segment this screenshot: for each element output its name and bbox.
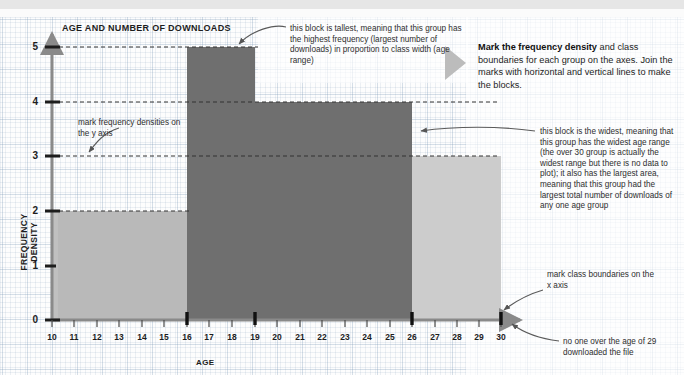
x-tick-label-20: 20 xyxy=(269,332,285,342)
arrow-no-one xyxy=(512,324,559,341)
instruction-callout: Mark the frequency density and class bou… xyxy=(478,41,676,91)
x-tick-label-30: 30 xyxy=(493,332,509,342)
x-tick-label-15: 15 xyxy=(156,332,172,342)
bar-26-30 xyxy=(412,156,501,320)
x-tick-label-25: 25 xyxy=(382,332,398,342)
annotation-mark-y-axis: mark frequency densities on the y axis xyxy=(78,118,190,139)
x-tick-label-27: 27 xyxy=(427,332,443,342)
x-tick-label-18: 18 xyxy=(224,332,240,342)
bars-group xyxy=(52,47,501,320)
x-tick-label-12: 12 xyxy=(89,332,105,342)
annotation-mark-x-axis: mark class boundaries on the x axis xyxy=(547,270,657,291)
y-tick-label-4: 4 xyxy=(24,96,38,107)
x-tick-label-29: 29 xyxy=(471,332,487,342)
x-tick-label-21: 21 xyxy=(292,332,308,342)
x-tick-label-23: 23 xyxy=(337,332,353,342)
x-tick-label-19: 19 xyxy=(247,332,263,342)
x-tick-label-17: 17 xyxy=(201,332,217,342)
instruction-bold-lead: Mark the frequency density xyxy=(478,42,597,52)
x-tick-label-10: 10 xyxy=(44,332,60,342)
x-tick-label-28: 28 xyxy=(449,332,465,342)
bar-10-16 xyxy=(52,211,187,320)
bar-19-26 xyxy=(255,102,412,320)
annotation-tallest-block: this block is tallest, meaning that this… xyxy=(290,24,462,66)
x-tick-label-14: 14 xyxy=(134,332,150,342)
chart-title: AGE AND NUMBER OF DOWNLOADS xyxy=(62,23,231,33)
arrow-mark-x xyxy=(504,290,543,310)
x-tick-label-11: 11 xyxy=(66,332,82,342)
arrow-tallest xyxy=(239,26,286,44)
annotation-widest-block: this block is the widest, meaning that t… xyxy=(540,127,680,212)
x-tick-label-24: 24 xyxy=(359,332,375,342)
bar-16-19 xyxy=(187,47,255,320)
x-axis-label: AGE xyxy=(196,358,215,367)
x-tick-label-13: 13 xyxy=(111,332,127,342)
y-tick-label-1: 1 xyxy=(24,260,38,271)
x-tick-label-16: 16 xyxy=(179,332,195,342)
arrow-widest xyxy=(421,127,535,131)
x-tick-label-26: 26 xyxy=(404,332,420,342)
annotation-no-one-over-29: no one over the age of 29 downloaded the… xyxy=(563,337,681,358)
x-tick-label-22: 22 xyxy=(314,332,330,342)
y-tick-label-3: 3 xyxy=(24,150,38,161)
page-root: AGE AND NUMBER OF DOWNLOADS FREQUENCY DE… xyxy=(0,0,684,375)
y-tick-label-5: 5 xyxy=(24,41,38,52)
y-tick-label-2: 2 xyxy=(24,205,38,216)
y-tick-label-0: 0 xyxy=(24,314,38,325)
